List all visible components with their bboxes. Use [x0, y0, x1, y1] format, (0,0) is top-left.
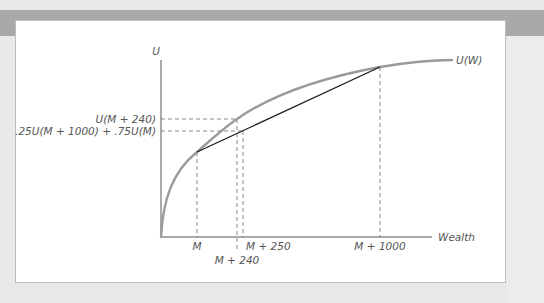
- x-tick-m: M: [192, 240, 201, 252]
- utility-diagram: U Wealth U(W) U(M + 240) .25U(M + 1000) …: [0, 0, 544, 303]
- x-tick-m240: M + 240: [215, 254, 260, 266]
- expected-utility-chord: [197, 67, 380, 152]
- y-tick-u-m240: U(M + 240): [96, 113, 156, 125]
- guide-lines: [161, 67, 380, 252]
- curve-label: U(W): [456, 54, 482, 66]
- y-tick-expected-utility: .25U(M + 1000) + .75U(M): [15, 125, 156, 137]
- x-tick-m1000: M + 1000: [354, 240, 406, 252]
- y-axis-label: U: [152, 45, 160, 57]
- x-axis-label: Wealth: [438, 231, 475, 243]
- x-tick-m250: M + 250: [246, 240, 291, 252]
